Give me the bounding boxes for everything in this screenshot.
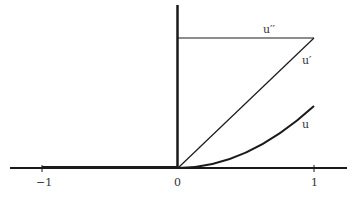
function-graph: u′′ u′ u −1 0 1 (0, 0, 354, 201)
label-u: u (302, 118, 309, 131)
curve-u-prime (178, 38, 314, 168)
curve-u (178, 106, 314, 168)
label-u-double-prime: u′′ (263, 23, 276, 36)
tick-label-neg1: −1 (36, 176, 52, 189)
tick-label-1: 1 (311, 176, 318, 189)
label-u-prime: u′ (302, 54, 312, 67)
tick-label-0: 0 (174, 176, 181, 189)
